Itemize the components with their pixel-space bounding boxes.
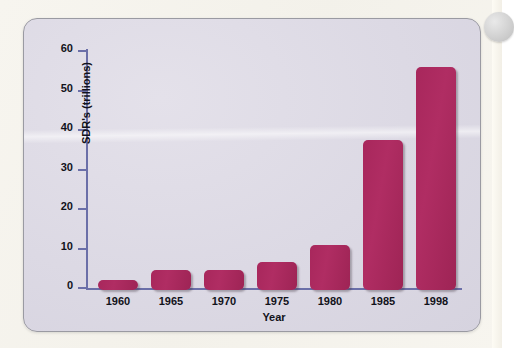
y-axis-tick: 0 — [78, 287, 87, 289]
bar-series — [88, 49, 462, 290]
bar-slot — [198, 51, 250, 290]
x-axis-tick-label: 1970 — [198, 295, 250, 307]
x-axis-tick-label: 1980 — [304, 295, 356, 307]
bar-1975 — [257, 262, 297, 290]
bar-slot — [304, 51, 356, 290]
y-axis-tick-label: 30 — [61, 161, 73, 173]
y-axis-tick-label: 0 — [67, 279, 73, 291]
x-axis-tick-label: 1998 — [410, 295, 462, 307]
y-axis-tick-label: 40 — [61, 121, 73, 133]
x-axis-tick-label: 1985 — [357, 295, 409, 307]
bar-1998 — [416, 67, 456, 290]
x-axis-tick-label: 1960 — [92, 295, 144, 307]
bar-slot — [357, 51, 409, 290]
bar-1970 — [204, 270, 244, 290]
bar-1960 — [98, 280, 138, 290]
bar-slot — [410, 51, 462, 290]
x-axis-title: Year — [86, 311, 462, 323]
y-axis-tick: 10 — [78, 248, 87, 250]
page-edge-circle-icon — [484, 12, 514, 42]
y-axis-tick-label: 10 — [61, 240, 73, 252]
bar-1980 — [310, 245, 350, 290]
page-edge-strip — [492, 0, 502, 348]
x-axis-tick-label: 1965 — [145, 295, 197, 307]
y-axis-tick-label: 60 — [61, 42, 73, 54]
x-axis-tick-label: 1975 — [251, 295, 303, 307]
y-axis-tick-label: 50 — [61, 82, 73, 94]
bar-1965 — [151, 270, 191, 290]
bar-1985 — [363, 140, 403, 290]
y-axis-tick-label: 20 — [61, 200, 73, 212]
bar-slot — [251, 51, 303, 290]
chart-panel: 0102030405060 SDR's (trillions) 19601965… — [23, 18, 481, 332]
bar-slot — [92, 51, 144, 290]
y-axis-tick: 20 — [78, 208, 87, 210]
bar-slot — [145, 51, 197, 290]
